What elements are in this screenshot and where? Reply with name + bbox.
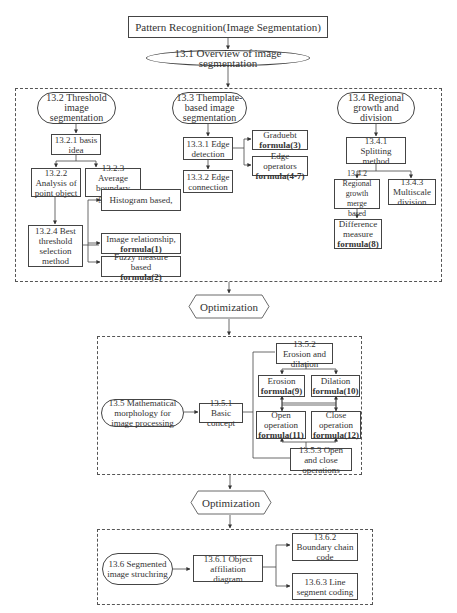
threshold-label: 13.2 Threshold image segmentation (40, 93, 113, 123)
close-operation-label: Close operation (314, 410, 358, 430)
open-close-operations-label: 13.5.3 Open and close operations (293, 445, 349, 475)
erosion-dilation-label: 13.5.2 Erosion and dilation (279, 339, 330, 369)
best-threshold-node: 13.2.4 Best threshold selection method (28, 225, 83, 267)
threshold-segmentation-node: 13.2 Threshold image segmentation (37, 92, 116, 124)
histogram-node: Histogram based, (101, 189, 181, 211)
regional-growth-label: 13.4 Regional growth and division (340, 93, 412, 123)
formula-11: formula(11) (258, 430, 304, 440)
edge-detection-node: 13.3.1 Edge detection (183, 137, 233, 160)
edge-operators-node: Edge operators formula(4-7) (252, 156, 308, 176)
edge-detection-label: 13.3.1 Edge detection (186, 139, 230, 159)
regional-merge-node: 13.4.2 Regional growth merge based (334, 179, 380, 209)
formula-4-7: formula(4-7) (256, 171, 305, 181)
erosion-node: Erosion formula(9) (258, 375, 305, 397)
optimization-step-1: Optimization (188, 294, 270, 319)
overview-label: 13.1 Overview of image segmentation (149, 48, 307, 68)
optimization-2-label: Optimization (190, 490, 272, 515)
boundary-chain-code-node: 13.6.2 Boundary chain code (292, 533, 358, 561)
object-affiliation-label: 13.6.1 Object affiliation diagram (196, 554, 260, 584)
title-label: Pattern Recognition(Image Segmentation) (135, 22, 321, 32)
difference-measure-label: Difference measure (337, 219, 379, 239)
segmented-structuring-label: 13.6 Segmented image struchring (105, 559, 170, 579)
edge-connection-label: 13.3.2 Edge connection (186, 172, 230, 192)
formula-8: formula(8) (337, 239, 379, 249)
boundary-chain-code-label: 13.6.2 Boundary chain code (295, 532, 355, 562)
edge-connection-node: 13.3.2 Edge connection (183, 170, 233, 193)
basis-idea-node: 13.2.1 basis idea (51, 134, 101, 155)
formula-9: formula(9) (261, 386, 303, 396)
point-object-label: 13.2.2 Analysis of point object (34, 168, 78, 198)
template-segmentation-node: 13.3 Themplate-based image segmentation (172, 92, 247, 124)
regional-merge-label: 13.4.2 Regional growth merge based (337, 169, 377, 219)
close-operation-node: Close operation formula(12) (311, 411, 361, 439)
open-close-operations-node: 13.5.3 Open and close operations (290, 448, 352, 471)
basic-concept-node: 13.5.1 Basic concept (199, 403, 243, 423)
point-object-node: 13.2.2 Analysis of point object (31, 168, 81, 197)
formula-2: formula(2) (120, 272, 162, 282)
formula-10: formula(10) (313, 386, 359, 396)
line-segment-coding-label: 13.6.3 Line segment coding (295, 577, 355, 597)
open-operation-label: Open operation (259, 410, 303, 430)
morphology-label: 13.5 Mathematical morphology for image p… (104, 398, 181, 428)
title-box: Pattern Recognition(Image Segmentation) (128, 16, 328, 38)
overview-node: 13.1 Overview of image segmentation (146, 50, 310, 66)
erosion-dilation-node: 13.5.2 Erosion and dilation (276, 343, 333, 364)
segmented-structuring-node: 13.6 Segmented image struchring (102, 553, 173, 585)
fuzzy-measure-label: Fuzzy measure based (104, 252, 178, 272)
regional-growth-node: 13.4 Regional growth and division (337, 92, 415, 124)
multiscale-division-node: 13.4.3 Multiscale division (388, 179, 436, 205)
object-affiliation-node: 13.6.1 Object affiliation diagram (193, 555, 263, 582)
optimization-step-2: Optimization (190, 490, 272, 515)
optimization-1-label: Optimization (188, 294, 270, 319)
best-threshold-label: 13.2.4 Best threshold selection method (31, 226, 80, 266)
fuzzy-measure-node: Fuzzy measure based formula(2) (101, 256, 181, 277)
histogram-label: Histogram based, (110, 195, 173, 205)
multiscale-division-label: 13.4.3 Multiscale division (391, 177, 433, 207)
template-label: 13.3 Themplate-based image segmentation (175, 93, 244, 123)
basis-idea-label: 13.2.1 basis idea (54, 135, 98, 155)
difference-measure-node: Difference measure formula(8) (334, 219, 382, 249)
formula-3: formula(3) (259, 140, 301, 150)
edge-operators-label: Edge operators (255, 151, 305, 171)
line-segment-coding-node: 13.6.3 Line segment coding (292, 573, 358, 600)
dilation-label: Dilation (321, 376, 351, 386)
erosion-label: Erosion (268, 376, 296, 386)
basic-concept-label: 13.5.1 Basic concept (202, 398, 240, 428)
graduebt-label: Graduebt (263, 130, 297, 140)
image-relationship-label: Image relationship, (106, 234, 175, 244)
splitting-method-node: 13.4.1 Splitting method (346, 137, 406, 164)
splitting-method-label: 13.4.1 Splitting method (349, 136, 403, 166)
dilation-node: Dilation formula(10) (311, 375, 360, 397)
open-operation-node: Open operation formula(11) (256, 411, 306, 439)
morphology-node: 13.5 Mathematical morphology for image p… (101, 399, 184, 427)
formula-12: formula(12) (313, 430, 359, 440)
graduebt-node: Graduebt formula(3) (252, 130, 308, 150)
